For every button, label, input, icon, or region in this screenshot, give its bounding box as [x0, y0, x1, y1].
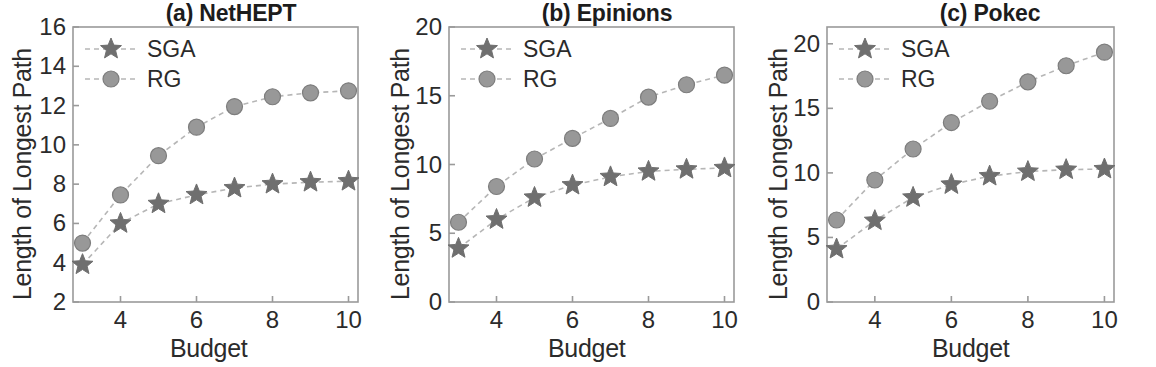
x-tick-label: 4 — [114, 306, 127, 330]
data-point-rg — [151, 148, 167, 164]
data-point-rg — [1058, 58, 1074, 74]
y-tick-label: 5 — [429, 219, 442, 246]
data-point-sga — [941, 174, 962, 194]
x-tick-label: 10 — [711, 306, 738, 330]
y-tick-label: 6 — [53, 209, 66, 236]
data-point-sga — [524, 187, 545, 207]
legend-marker-sga — [477, 38, 498, 58]
data-point-sga — [262, 173, 283, 193]
legend-label-rg: RG — [523, 66, 558, 92]
data-point-rg — [489, 179, 505, 195]
legend-label-sga: SGA — [147, 36, 196, 62]
legend-marker-sga — [101, 38, 122, 58]
data-point-rg — [227, 99, 243, 115]
legend-marker-rg — [479, 71, 495, 87]
x-tick-label: 6 — [566, 306, 579, 330]
data-point-rg — [1020, 74, 1036, 90]
panel-pokec: (c) Pokec Length of Longest Path Budget … — [764, 0, 1156, 367]
axis-frame — [449, 27, 734, 302]
plot-area-epinions: 4681005101520SGARG — [382, 0, 764, 330]
x-tick-label: 4 — [490, 306, 503, 330]
data-point-rg — [75, 235, 91, 251]
plot-area-netHEPT: 46810246810121416SGARG — [0, 0, 382, 330]
data-point-rg — [189, 119, 205, 135]
y-tick-label: 20 — [793, 30, 820, 57]
data-point-sga — [903, 186, 924, 206]
data-point-rg — [1096, 44, 1112, 60]
y-tick-label: 8 — [53, 170, 66, 197]
x-axis-label-netHEPT: Budget — [170, 334, 247, 363]
x-tick-label: 6 — [945, 306, 958, 330]
data-point-sga — [638, 160, 659, 180]
x-tick-label: 4 — [868, 306, 881, 330]
series-line-rg — [459, 75, 725, 222]
y-tick-label: 15 — [793, 94, 820, 121]
x-tick-label: 10 — [1091, 306, 1118, 330]
data-point-rg — [943, 115, 959, 131]
x-tick-label: 8 — [1021, 306, 1034, 330]
legend-marker-rg — [103, 71, 119, 87]
data-point-sga — [110, 212, 131, 232]
data-point-rg — [641, 89, 657, 105]
x-tick-label: 10 — [335, 306, 362, 330]
data-point-rg — [265, 89, 281, 105]
data-point-rg — [867, 172, 883, 188]
data-point-rg — [527, 151, 543, 167]
y-tick-label: 10 — [415, 151, 442, 178]
series-line-rg — [837, 52, 1105, 220]
y-tick-label: 5 — [807, 223, 820, 250]
data-point-rg — [717, 67, 733, 83]
plot-area-pokec: 4681005101520SGARG — [764, 0, 1156, 330]
legend-label-rg: RG — [901, 66, 936, 92]
data-point-sga — [1056, 159, 1077, 179]
data-point-sga — [338, 170, 359, 190]
data-point-sga — [714, 157, 735, 177]
y-tick-label: 0 — [807, 288, 820, 315]
data-point-sga — [826, 238, 847, 258]
y-tick-label: 20 — [415, 13, 442, 40]
y-tick-label: 2 — [53, 288, 66, 315]
data-point-rg — [829, 212, 845, 228]
panel-epinions: (b) Epinions Length of Longest Path Budg… — [382, 0, 764, 367]
y-tick-label: 15 — [415, 82, 442, 109]
legend-label-sga: SGA — [901, 36, 950, 62]
data-point-sga — [676, 158, 697, 178]
data-point-sga — [186, 184, 207, 204]
data-point-rg — [303, 85, 319, 101]
data-point-sga — [979, 165, 1000, 185]
y-tick-label: 14 — [39, 52, 66, 79]
data-point-sga — [224, 177, 245, 197]
data-point-rg — [451, 214, 467, 230]
data-point-rg — [905, 141, 921, 157]
y-tick-label: 0 — [429, 288, 442, 315]
x-tick-label: 6 — [190, 306, 203, 330]
data-point-sga — [148, 193, 169, 213]
data-point-sga — [562, 174, 583, 194]
data-point-sga — [448, 237, 469, 257]
x-tick-label: 8 — [266, 306, 279, 330]
x-axis-label-epinions: Budget — [548, 334, 625, 363]
y-tick-label: 16 — [39, 13, 66, 40]
data-point-rg — [679, 77, 695, 93]
data-point-rg — [603, 110, 619, 126]
y-tick-label: 10 — [793, 159, 820, 186]
y-tick-label: 12 — [39, 92, 66, 119]
data-point-rg — [982, 93, 998, 109]
data-point-rg — [341, 83, 357, 99]
legend-marker-sga — [855, 38, 876, 58]
data-point-sga — [1094, 158, 1115, 178]
data-point-rg — [113, 187, 129, 203]
legend-label-rg: RG — [147, 66, 182, 92]
data-point-sga — [300, 171, 321, 191]
data-point-rg — [565, 130, 581, 146]
y-tick-label: 4 — [53, 249, 66, 276]
data-point-sga — [600, 166, 621, 186]
figure-multi-panel-line-charts: (a) NetHEPT Length of Longest Path Budge… — [0, 0, 1156, 367]
legend-marker-rg — [857, 71, 873, 87]
data-point-sga — [1017, 161, 1038, 181]
x-axis-label-pokec: Budget — [932, 334, 1009, 363]
legend-label-sga: SGA — [523, 36, 572, 62]
x-tick-label: 8 — [642, 306, 655, 330]
axis-frame — [73, 27, 358, 302]
panel-netHEPT: (a) NetHEPT Length of Longest Path Budge… — [0, 0, 382, 367]
